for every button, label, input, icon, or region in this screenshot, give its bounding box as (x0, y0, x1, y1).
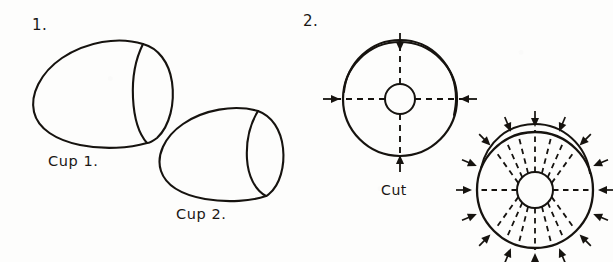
diagram-canvas: 1. Cup 1. Cup 2. 2. (0, 0, 613, 262)
cutline-r9 (519, 207, 528, 244)
arrow-inward-icon-7 (555, 247, 569, 262)
arrow-down-icon (396, 33, 404, 51)
arrow-up-icon (396, 155, 404, 172)
cutline-r3 (552, 153, 574, 184)
arrow-inward-icon-4 (598, 186, 613, 194)
cut-circle-4-group: Cut (323, 33, 477, 198)
cutline-r5 (552, 197, 574, 228)
cut-circle-16-hub (517, 172, 553, 208)
cup-2-body-top (160, 108, 266, 201)
arrow-inward-icon-12 (456, 186, 472, 194)
cup-1-label: Cup 1. (48, 153, 99, 169)
cutline-r6 (548, 203, 563, 237)
arrow-inward-icon-10 (476, 232, 493, 249)
cup-2-mouth-inner (247, 111, 266, 196)
arrow-inward-icon-9 (501, 247, 515, 262)
cup-1-mouth-outer (143, 44, 173, 143)
arrow-inward-icon-8 (531, 253, 539, 262)
cut-circle-4-hub (385, 84, 415, 114)
cup-1-body-top (33, 40, 147, 147)
step-2-number: 2. (303, 12, 318, 30)
cutline-r7 (542, 207, 551, 244)
arrow-right-icon (323, 95, 340, 103)
step-1-group: 1. Cup 1. Cup 2. (32, 16, 283, 222)
cup-2-label: Cup 2. (176, 206, 227, 222)
cutline-r2 (548, 143, 563, 177)
cut-label: Cut (381, 182, 407, 198)
cutline-r15 (519, 137, 528, 174)
cutline-r1 (542, 137, 551, 174)
cutline-r13 (496, 153, 518, 184)
step-2-group: 2. (303, 12, 613, 262)
cup-2-drawing (160, 108, 284, 201)
cup-1-mouth-inner (133, 44, 147, 143)
step-1-number: 1. (32, 16, 47, 34)
arrow-inward-icon-13 (460, 156, 478, 170)
cut-circle-4-rim-offset (344, 40, 456, 115)
cutline-r10 (507, 203, 522, 237)
arrow-inward-icon-5 (592, 210, 610, 224)
cup-1-drawing (33, 40, 173, 147)
arrow-inward-icon-3 (592, 156, 610, 170)
arrow-inward-icon-6 (577, 232, 594, 249)
cutline-r11 (496, 197, 518, 228)
cutline-r14 (507, 143, 522, 177)
cup-2-mouth-outer (258, 111, 283, 196)
cut-circle-16-group (456, 111, 613, 262)
arrow-left-icon (460, 95, 477, 103)
arrow-inward-icon-11 (460, 210, 478, 224)
